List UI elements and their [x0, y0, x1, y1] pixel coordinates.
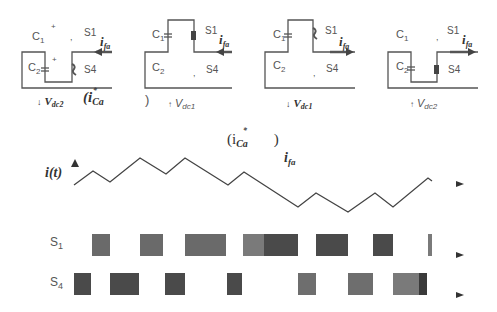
pulse-block	[428, 234, 432, 256]
pulse-block	[373, 234, 393, 256]
label-voltage-vdc1: ↑Vdc1	[168, 97, 195, 111]
pulse-block	[165, 273, 185, 295]
waveform-trace	[74, 158, 432, 212]
label-c2: C2	[273, 59, 286, 74]
label-s1: S1	[205, 25, 218, 36]
label-s4: S4	[326, 63, 339, 74]
pulse-block	[185, 234, 226, 256]
label-s4: S4	[448, 64, 461, 75]
label-c1: C1	[32, 30, 45, 45]
label-current-ifa: ifa	[100, 34, 110, 51]
time-axis-arrow-icon	[456, 181, 464, 187]
label-paren: )	[145, 92, 149, 107]
time-axis-arrow-icon	[456, 252, 464, 258]
label-c1: C1	[273, 28, 286, 43]
plus-sign: +	[52, 55, 57, 64]
label-reference-current: (iCa)	[227, 131, 279, 149]
label-s4: S4	[84, 64, 97, 75]
label-s1: S1	[84, 27, 97, 38]
pulse-block	[348, 273, 373, 295]
s1-pulse-blocks	[92, 234, 432, 256]
label-c1: C1	[152, 28, 165, 43]
switch-s1-icon	[191, 31, 196, 40]
label-current-ifa: ifa	[219, 32, 229, 49]
dot: ,	[193, 68, 196, 78]
pulse-block	[316, 234, 348, 256]
current-arrow-in-icon	[216, 48, 232, 56]
dot: ,	[313, 68, 316, 78]
diagram-canvas: C1 C2 + + , S1 S4 ifa ↓Vdc2 (iCa * C1 C2…	[0, 0, 497, 312]
label-trace-ifa: ifa	[284, 150, 296, 167]
current-arrow-out-icon	[450, 48, 476, 56]
pulse-block	[110, 273, 139, 295]
plus-sign: +	[51, 22, 56, 31]
dot: ,	[70, 32, 73, 42]
label-c1: C1	[396, 28, 409, 43]
label-s1-signal: S1	[50, 235, 63, 251]
pulse-block	[419, 273, 427, 295]
label-s1: S1	[325, 25, 338, 36]
pulse-block	[227, 273, 242, 295]
label-c2: C2	[152, 61, 165, 76]
label-s1: S1	[447, 25, 460, 36]
switch-s4-icon	[434, 65, 439, 74]
pulse-block	[393, 273, 419, 295]
switching-s1: S1	[50, 234, 464, 258]
pulse-block	[298, 273, 316, 295]
pulse-block	[243, 234, 264, 256]
y-axis-arrow-icon	[71, 159, 79, 167]
label-s4: S4	[206, 64, 219, 75]
y-axis-label: i(t)	[45, 165, 62, 181]
label-star: *	[243, 126, 248, 135]
label-current-ifa: ifa	[462, 32, 472, 49]
label-voltage-vdc2: ↑Vdc2	[410, 97, 438, 111]
pulse-block	[74, 273, 91, 295]
time-axis-arrow-icon	[456, 292, 464, 298]
s4-pulse-blocks	[74, 273, 427, 295]
label-s4-signal: S4	[50, 275, 63, 291]
dot: ,	[436, 32, 439, 42]
label-c2: C2	[28, 61, 41, 76]
label-current-ifa: ifa	[339, 34, 349, 51]
switching-s4: S4	[50, 273, 464, 298]
label-voltage-vdc1: ↓Vdc1	[286, 97, 312, 111]
pulse-block	[140, 234, 163, 256]
pulse-block	[264, 234, 298, 256]
label-c2: C2	[396, 60, 409, 75]
pulse-block	[92, 234, 110, 256]
current-waveform: i(t) (iCa) * ifa	[45, 126, 464, 212]
label-voltage-vdc2: ↓Vdc2	[37, 95, 63, 109]
